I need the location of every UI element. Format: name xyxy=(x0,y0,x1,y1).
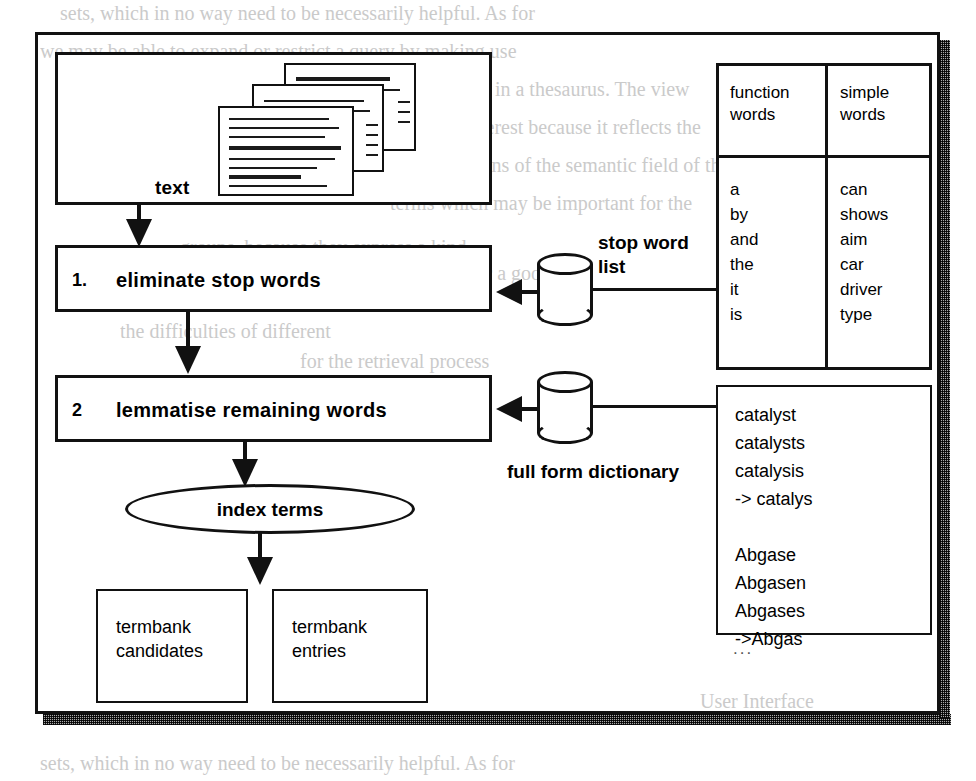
header-function-line1: function xyxy=(730,83,790,102)
text-box-label: text xyxy=(155,177,190,199)
function-word-item: and xyxy=(730,230,758,249)
full-form-dictionary-label: full form dictionary xyxy=(507,460,679,484)
word-table-header-divider xyxy=(719,155,929,158)
arrow-index-to-termbank-stem xyxy=(258,532,262,560)
dictionary-examples-box: catalyst catalysts catalysis -> catalys … xyxy=(716,385,932,635)
termbank-candidates-label: termbank candidates xyxy=(116,615,203,663)
termbank-candidates-line1: termbank xyxy=(116,617,191,637)
document-page-front xyxy=(218,106,354,196)
termbank-entries-box: termbank entries xyxy=(272,589,428,703)
connector-dictionary-to-dictbox xyxy=(590,405,716,408)
step-2-box: 2 lemmatise remaining words xyxy=(55,375,492,442)
function-word-item: it xyxy=(730,280,739,299)
full-form-dictionary-cylinder xyxy=(537,371,593,444)
function-word-item: is xyxy=(730,305,742,324)
function-word-item: a xyxy=(730,180,739,199)
frame-shadow-right xyxy=(940,40,950,718)
simple-word-item: shows xyxy=(840,205,888,224)
arrow-step1-to-step2-stem xyxy=(186,312,190,346)
stop-word-list-cylinder xyxy=(537,253,593,326)
termbank-entries-label: termbank entries xyxy=(292,615,367,663)
termbank-candidates-line2: candidates xyxy=(116,641,203,661)
word-table-header-function-words: function words xyxy=(730,82,790,126)
arrow-step1-to-step2-head xyxy=(175,346,201,374)
text-input-box: text xyxy=(55,52,492,205)
stop-word-list-label-text2: list xyxy=(598,256,625,277)
function-word-item: the xyxy=(730,255,754,274)
step-1-box: 1. eliminate stop words xyxy=(55,245,492,312)
step-2-number: 2 xyxy=(72,400,82,421)
simple-word-item: type xyxy=(840,305,872,324)
simple-word-item: car xyxy=(840,255,864,274)
simple-word-item: driver xyxy=(840,280,883,299)
dictionary-ellipsis: ... xyxy=(733,639,753,659)
simple-word-item: can xyxy=(840,180,867,199)
step-1-number: 1. xyxy=(72,270,87,291)
simple-word-item: aim xyxy=(840,230,867,249)
word-table-column-simple-words: can shows aim car driver type xyxy=(840,177,888,327)
index-terms-node: index terms xyxy=(125,484,415,534)
termbank-entries-line2: entries xyxy=(292,641,346,661)
arrow-index-to-termbank-head xyxy=(247,557,273,585)
flowchart-figure: text xyxy=(0,0,976,781)
index-terms-label: index terms xyxy=(128,499,412,521)
function-word-item: by xyxy=(730,205,748,224)
word-table-column-divider xyxy=(825,66,828,367)
arrow-step2-to-index-head xyxy=(232,459,258,487)
frame-shadow-bottom xyxy=(43,714,951,725)
header-function-line2: words xyxy=(730,105,775,124)
arrow-text-to-step1-head xyxy=(126,219,152,247)
step-1-label: eliminate stop words xyxy=(116,269,321,292)
header-simple-line2: words xyxy=(840,105,885,124)
stop-word-list-label-line1: stop word list xyxy=(598,231,689,279)
word-table-header-simple-words: simple words xyxy=(840,82,889,126)
termbank-entries-line1: termbank xyxy=(292,617,367,637)
arrow-stopwords-to-step1-head xyxy=(496,279,522,305)
word-table-column-function-words: a by and the it is xyxy=(730,177,758,327)
dictionary-entries-list: catalyst catalysts catalysis -> catalys … xyxy=(735,401,813,653)
stop-word-list-label-text1: stop word xyxy=(598,232,689,253)
arrow-dictionary-to-step2-head xyxy=(496,396,522,422)
step-2-label: lemmatise remaining words xyxy=(116,399,387,422)
connector-stopwords-to-table xyxy=(590,288,716,291)
header-simple-line1: simple xyxy=(840,83,889,102)
termbank-candidates-box: termbank candidates xyxy=(96,589,248,703)
